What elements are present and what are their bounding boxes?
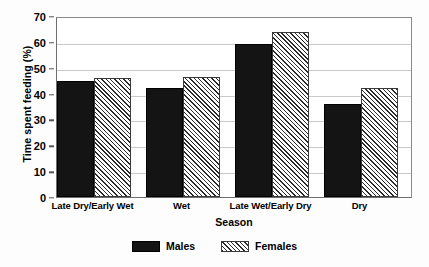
bar-females-2 <box>272 32 309 197</box>
bar-females-1 <box>183 77 220 197</box>
y-axis-tick-mark <box>49 42 54 43</box>
y-axis-tick-mark <box>49 16 54 17</box>
y-axis-tick-mark <box>49 171 54 172</box>
legend-entry-females: Females <box>221 240 297 252</box>
x-axis-title: Season <box>56 216 412 228</box>
bar-males-2 <box>235 44 272 197</box>
bar-females-3 <box>361 88 398 197</box>
x-axis-tick-labels: Late Dry/Early WetWetLate Wet/Early DryD… <box>56 200 412 216</box>
x-axis-tick-label: Late Wet/Early Dry <box>230 200 312 211</box>
y-axis-tick-labels: 010203040506070 <box>0 17 54 198</box>
x-axis-tick-label: Dry <box>352 200 368 211</box>
legend-swatch-females <box>221 241 249 252</box>
y-axis-tick-label: 70 <box>34 11 46 23</box>
bar-females-0 <box>94 78 131 197</box>
chart-legend: MalesFemales <box>0 240 429 252</box>
y-axis-tick-mark <box>49 120 54 121</box>
y-axis-tick-label: 30 <box>34 114 46 126</box>
legend-entry-males: Males <box>132 240 195 252</box>
y-axis-tick-label: 40 <box>34 89 46 101</box>
bar-males-0 <box>57 81 94 197</box>
y-axis-tick-mark <box>49 146 54 147</box>
bar-chart-figure: Time spent feeding (%) 010203040506070 L… <box>0 0 429 267</box>
y-axis-tick-label: 50 <box>34 63 46 75</box>
plot-area <box>56 17 412 198</box>
y-axis-tick-label: 20 <box>34 140 46 152</box>
legend-swatch-males <box>132 241 160 252</box>
bar-males-3 <box>324 104 361 197</box>
x-axis-tick-label: Wet <box>173 200 190 211</box>
y-axis-tick-label: 60 <box>34 37 46 49</box>
y-axis-tick-mark <box>49 94 54 95</box>
y-axis-tick-mark <box>49 68 54 69</box>
bar-males-1 <box>146 88 183 197</box>
y-axis-tick-label: 0 <box>40 192 46 204</box>
legend-label: Males <box>166 240 195 252</box>
y-axis-tick-label: 10 <box>34 166 46 178</box>
x-axis-tick-label: Late Dry/Early Wet <box>52 200 134 211</box>
bar-series-container <box>57 18 411 197</box>
y-axis-tick-mark <box>49 197 54 198</box>
legend-label: Females <box>255 240 297 252</box>
